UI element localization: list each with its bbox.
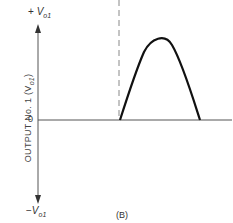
waveform-diagram <box>0 0 233 223</box>
half-sine-pulse <box>120 38 200 120</box>
top-voltage-label: + Vo1 <box>28 6 51 19</box>
y-axis-label: OUTPUT No. 1 (Vo1) <box>23 63 35 173</box>
figure-caption: (B) <box>116 210 128 220</box>
down-arrow-icon <box>35 195 41 204</box>
bottom-voltage-label: −Vo1 <box>26 205 46 218</box>
up-arrow-icon <box>35 24 41 33</box>
